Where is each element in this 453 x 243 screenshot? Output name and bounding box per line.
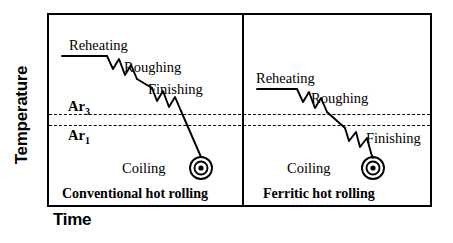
- ar3-label-subscript: 3: [85, 106, 90, 117]
- ferritic-coil-spiral-icon: [362, 157, 384, 179]
- conventional-panel-caption: Conventional hot rolling: [62, 187, 208, 201]
- conventional-reheating-label: Reheating: [69, 38, 128, 53]
- conventional-coiling-label: Coiling: [122, 161, 166, 176]
- ar1-label: Ar1: [68, 128, 90, 146]
- plot-frame: Ar3 Ar1: [47, 13, 432, 207]
- ar1-label-subscript: 1: [85, 135, 90, 146]
- ferritic-finishing-label: Finishing: [366, 131, 421, 146]
- ar3-label-text: Ar: [68, 98, 85, 114]
- ferritic-reheating-label: Reheating: [256, 71, 315, 86]
- figure-root: Temperature Time Ar3 Ar1: [0, 0, 453, 243]
- conventional-runout-cooling-segment: [181, 111, 201, 157]
- ferritic-panel-caption: Ferritic hot rolling: [263, 187, 375, 201]
- ferritic-coiling-entry-segment: [371, 153, 373, 158]
- ferritic-roughing-label: Roughing: [311, 91, 368, 106]
- ar3-transformation-line: [49, 114, 430, 115]
- ar1-transformation-line: [49, 125, 430, 126]
- x-axis-label: Time: [53, 210, 91, 230]
- panel-divider: [242, 15, 244, 207]
- ar1-label-text: Ar: [68, 127, 85, 143]
- conventional-finishing-label: Finishing: [148, 82, 203, 97]
- ar3-label: Ar3: [68, 99, 90, 117]
- ferritic-coiling-label: Coiling: [287, 161, 331, 176]
- conventional-coil-spiral-icon: [190, 157, 212, 179]
- y-axis-label: Temperature: [12, 60, 32, 170]
- conventional-roughing-label: Roughing: [124, 60, 181, 75]
